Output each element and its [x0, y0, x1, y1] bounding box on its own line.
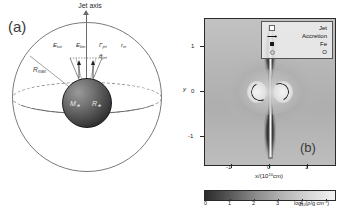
cbar-label-3: 3 — [276, 200, 279, 206]
radius-star-annotation: R★ — [92, 100, 101, 108]
legend-item-jet: Jet — [265, 24, 329, 32]
accretion-arrow-icon: ⟶ — [265, 33, 279, 40]
y-tick-label-0: 0 — [191, 88, 194, 94]
jet-marker-icon — [265, 25, 279, 31]
x-tick-label-neg1: -1 — [226, 164, 231, 170]
cbar-label-1: 1 — [228, 200, 231, 206]
jet-cocoon — [239, 69, 301, 115]
legend-item-fe: Fe — [265, 40, 329, 48]
oxygen-marker-icon — [265, 50, 279, 55]
cbar-label-2: 2 — [252, 200, 255, 206]
figure-container: (a) Jet axis — [0, 0, 349, 211]
mass-star-annotation: M★ — [70, 100, 80, 108]
legend-item-o: O — [265, 48, 329, 56]
r-max-annotation: Rmax — [33, 66, 46, 74]
panel-a-schematic: (a) Jet axis — [0, 0, 175, 211]
colorbar-axis-label: log10(ρ/g cm-3) — [294, 200, 329, 207]
x-tick-label-1: 1 — [305, 164, 308, 170]
x-axis-label: x/(1010cm) — [204, 172, 334, 179]
panel-b-label: (b) — [300, 140, 316, 155]
y-tick-label-1: 1 — [191, 43, 194, 49]
iron-marker-icon — [265, 42, 279, 46]
density-heatmap-plot: Jet ⟶ Accretion Fe O — [204, 18, 336, 166]
panel-b-legend: Jet ⟶ Accretion Fe O — [261, 21, 333, 59]
r-inner-annotation: rin — [121, 42, 126, 49]
e-kinetic-annotation: Ekin — [76, 42, 85, 49]
theta-jet-annotation: θjet — [99, 53, 107, 60]
e-total-annotation: Etot — [53, 42, 62, 49]
legend-item-accretion: ⟶ Accretion — [265, 32, 329, 40]
cbar-label-0: 0 — [204, 200, 207, 206]
y-tick-label-neg1: -1 — [188, 133, 193, 139]
lorentz-factor-annotation: Γjet — [99, 42, 107, 49]
panel-b-simulation: (b) y 1 0 -1 — [176, 0, 349, 211]
x-tick-label-0: 0 — [267, 164, 270, 170]
y-axis-label: y — [183, 86, 186, 92]
